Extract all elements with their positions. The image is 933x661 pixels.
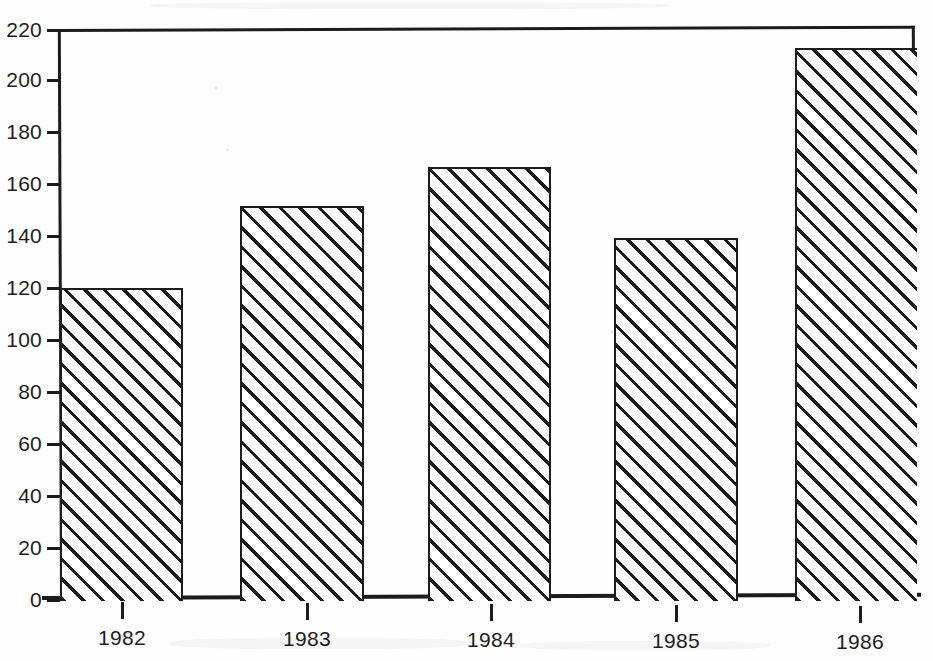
x-tick-label: 1985	[652, 627, 700, 655]
x-tick-mark	[859, 606, 862, 623]
bar-chart: 0 20 40 60 80 100 120 140	[0, 0, 933, 661]
x-axis: 1982 1983 1984 1985 1986	[0, 0, 933, 661]
x-tick-label: 1986	[836, 628, 884, 656]
x-tick-mark	[121, 602, 124, 619]
x-tick-label: 1983	[283, 625, 331, 653]
x-tick-label: 1982	[98, 624, 146, 652]
x-tick-mark	[490, 604, 493, 621]
x-tick-label: 1984	[467, 626, 515, 654]
x-tick-mark	[306, 603, 309, 620]
x-tick-mark	[675, 605, 678, 622]
